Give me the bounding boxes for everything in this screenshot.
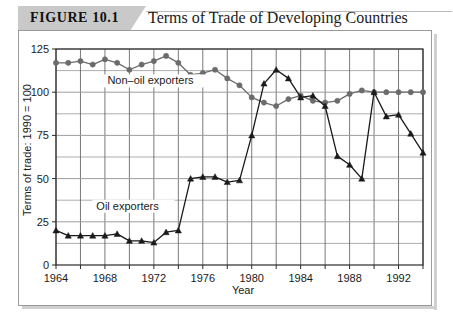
- x-tick-label: 1976: [191, 272, 215, 284]
- figure-header: FIGURE 10.1 Terms of Trade of Developing…: [18, 6, 434, 30]
- data-point-marker: [127, 67, 132, 72]
- figure-title: Terms of Trade of Developing Countries: [148, 9, 408, 27]
- data-point-marker: [249, 95, 254, 100]
- chart-annotations: Non–oil exportersOil exporters: [92, 74, 208, 212]
- series-annotation-label: Oil exporters: [96, 200, 159, 212]
- data-point-marker: [286, 97, 291, 102]
- frame-shadow-bottom: [22, 306, 437, 309]
- data-point-marker: [90, 62, 95, 67]
- data-point-marker: [310, 98, 315, 103]
- data-point-marker: [274, 103, 279, 108]
- y-tick-label: 25: [37, 216, 49, 228]
- x-tick-label: 1972: [142, 272, 166, 284]
- figure-container: FIGURE 10.1 Terms of Trade of Developing…: [0, 0, 453, 316]
- data-point-marker: [176, 60, 181, 65]
- data-point-marker: [115, 60, 120, 65]
- data-point-marker: [408, 90, 413, 95]
- x-tick-label: 1988: [337, 272, 361, 284]
- y-tick-label: 0: [43, 259, 49, 271]
- x-tick-label: 1992: [386, 272, 410, 284]
- frame-shadow-right: [434, 34, 437, 310]
- chart-x-ticks: 19641968197219761980198419881992: [44, 265, 423, 284]
- x-tick-label: 1968: [93, 272, 117, 284]
- x-tick-label: 1984: [288, 272, 312, 284]
- y-tick-label: 50: [37, 173, 49, 185]
- chart-y-ticks: 0255075100125: [31, 43, 56, 271]
- data-point-marker: [273, 67, 279, 73]
- data-point-marker: [420, 90, 425, 95]
- data-point-marker: [66, 60, 71, 65]
- data-point-marker: [53, 227, 59, 233]
- data-point-marker: [359, 88, 364, 93]
- data-point-marker: [237, 83, 242, 88]
- x-axis-title: Year: [232, 284, 255, 296]
- y-axis-title: Terms of trade: 1990 = 100: [21, 84, 33, 216]
- data-point-marker: [261, 100, 266, 105]
- data-point-marker: [102, 57, 107, 62]
- data-point-marker: [151, 58, 156, 63]
- y-tick-label: 100: [31, 86, 49, 98]
- data-point-marker: [384, 90, 389, 95]
- line-chart: 0255075100125 19641968197219761980198419…: [18, 30, 432, 306]
- data-point-marker: [53, 60, 58, 65]
- data-point-marker: [164, 53, 169, 58]
- data-point-marker: [139, 62, 144, 67]
- y-tick-label: 125: [31, 43, 49, 55]
- data-point-marker: [225, 76, 230, 81]
- x-tick-label: 1964: [44, 272, 68, 284]
- data-point-marker: [396, 90, 401, 95]
- x-tick-label: 1980: [239, 272, 263, 284]
- data-point-marker: [212, 67, 217, 72]
- figure-number-label: FIGURE 10.1: [30, 10, 119, 26]
- data-point-marker: [347, 91, 352, 96]
- data-point-marker: [335, 98, 340, 103]
- series-annotation-label: Non–oil exporters: [107, 74, 194, 86]
- data-point-marker: [78, 58, 83, 63]
- series-oil-exporters: [53, 67, 426, 245]
- y-tick-label: 75: [37, 129, 49, 141]
- data-point-marker: [334, 153, 340, 159]
